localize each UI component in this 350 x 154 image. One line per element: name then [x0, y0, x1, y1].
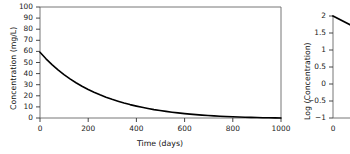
log-y-ticks [329, 16, 333, 118]
linear-axes-frame [40, 7, 281, 118]
log-y-axis-title: Log (Concentration) [304, 42, 312, 120]
decay-curve [40, 52, 281, 118]
linear-plot-canvas [0, 0, 290, 154]
linear-xtick-label: 200 [81, 125, 95, 132]
linear-x-axis-title: Time (days) [137, 140, 183, 148]
log-plot-canvas [290, 0, 350, 154]
chart-log-concentration-vs-time: 2 1.5 1 0.5 0 −0.5 −1 0 Log (Concentrati… [290, 0, 350, 154]
linear-ytick-label: 90 [13, 14, 33, 21]
linear-xtick-label: 400 [129, 125, 143, 132]
linear-ytick-label: 100 [13, 3, 33, 10]
linear-xtick-label: 0 [38, 125, 43, 132]
log-ytick-label: 2 [308, 12, 326, 19]
log-decay-line [333, 16, 350, 25]
linear-ytick-label: 0 [13, 114, 33, 121]
log-ytick-label: 1.5 [308, 29, 326, 36]
log-xtick-label: 0 [331, 125, 336, 132]
linear-x-ticks [40, 118, 281, 122]
linear-y-ticks [36, 7, 40, 118]
linear-y-axis-title: Concentration (mg/L) [10, 27, 18, 110]
chart-concentration-vs-time: 100 90 80 70 60 50 40 30 20 10 0 0 200 4… [0, 0, 290, 154]
linear-xtick-label: 1000 [272, 125, 291, 132]
linear-xtick-label: 800 [226, 125, 240, 132]
log-axes-frame [333, 16, 350, 118]
linear-xtick-label: 600 [178, 125, 192, 132]
figure-two-panel-decay-plots: 100 90 80 70 60 50 40 30 20 10 0 0 200 4… [0, 0, 350, 154]
